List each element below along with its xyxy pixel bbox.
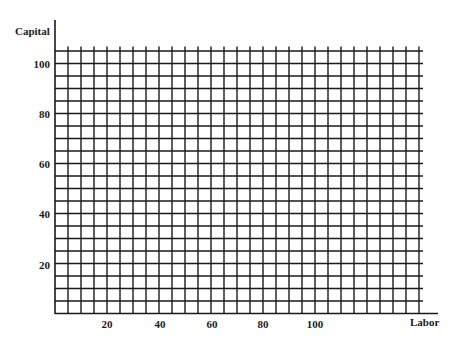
x-tick-80: 80: [258, 318, 270, 330]
chart: Capital Labor 100 80 60 40 20 20 40 60 8…: [0, 0, 459, 347]
y-tick-80: 80: [39, 108, 51, 120]
x-axis-label: Labor: [410, 316, 439, 328]
y-tick-20: 20: [39, 259, 51, 271]
x-tick-20: 20: [102, 318, 114, 330]
x-tick-40: 40: [155, 318, 167, 330]
y-axis-label: Capital: [15, 25, 50, 37]
x-tick-60: 60: [207, 318, 219, 330]
x-tick-100: 100: [307, 318, 324, 330]
y-tick-100: 100: [34, 58, 51, 70]
y-tick-40: 40: [39, 208, 51, 220]
y-tick-60: 60: [39, 158, 51, 170]
grid-lines: [55, 47, 423, 314]
